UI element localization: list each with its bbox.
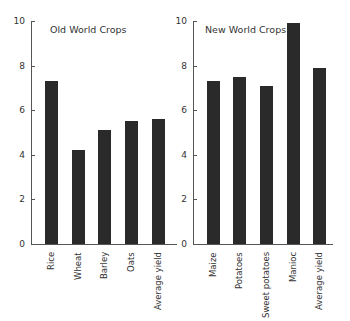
new-world-chart: 0246810New World CropsMaizePotatoesSweet… — [0, 0, 350, 321]
bar — [260, 86, 273, 244]
y-tick-label: 6 — [173, 105, 187, 115]
y-tick-label: 8 — [173, 61, 187, 71]
y-tick-label: 0 — [173, 239, 187, 249]
y-tick-label: 4 — [173, 150, 187, 160]
bar — [233, 77, 246, 244]
category-label: Average yield — [314, 252, 324, 310]
y-tick — [193, 110, 197, 111]
y-tick — [193, 199, 197, 200]
y-tick-label: 10 — [173, 16, 187, 26]
bar — [287, 23, 300, 244]
y-tick-label: 2 — [173, 194, 187, 204]
category-label: Maize — [208, 252, 218, 277]
chart-title: New World Crops — [205, 24, 286, 35]
category-label: Potatoes — [234, 252, 244, 289]
y-tick — [193, 66, 197, 67]
x-axis — [193, 244, 333, 245]
bar — [207, 81, 220, 244]
bar — [313, 68, 326, 244]
y-axis — [193, 21, 194, 245]
y-tick — [193, 244, 197, 245]
y-tick — [193, 21, 197, 22]
category-label: Sweet potatoes — [261, 252, 271, 318]
category-label: Manioc — [288, 252, 298, 282]
y-tick — [193, 155, 197, 156]
